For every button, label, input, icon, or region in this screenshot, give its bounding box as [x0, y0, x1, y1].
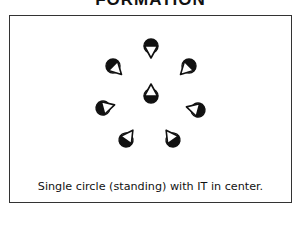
it-player-symbol [144, 84, 158, 103]
player-symbol-bottom-left [116, 126, 138, 150]
players-group [94, 39, 206, 150]
player-symbol-upper-left [103, 56, 126, 79]
player-symbol-upper-right [176, 56, 199, 79]
player-symbol-top [144, 39, 158, 58]
player-symbol-right [185, 100, 207, 118]
player-symbol-bottom-right [160, 126, 182, 150]
player-symbol-left [94, 98, 116, 116]
diagram-caption: Single circle (standing) with IT in cent… [0, 180, 301, 193]
